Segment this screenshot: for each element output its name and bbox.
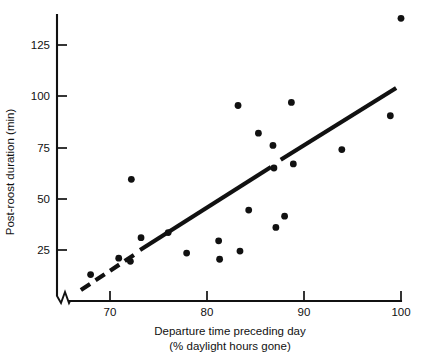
x-tick-labels: 70 80 90 100: [104, 306, 411, 318]
x-axis-title-line1: Departure time preceding day: [154, 325, 306, 337]
x-axis-ticks: [110, 291, 401, 301]
data-point: [128, 176, 135, 183]
trend-line-solid-segment-2: [281, 88, 396, 160]
y-tick-label-75: 75: [37, 142, 50, 154]
data-point: [127, 258, 134, 265]
scatter-plot-figure: 25 50 75 100 125 70 80 90 100 Departure …: [0, 0, 427, 357]
data-point: [281, 213, 288, 220]
axis-break-zigzag: [57, 289, 70, 303]
data-point: [271, 165, 278, 172]
x-tick-label-90: 90: [298, 306, 311, 318]
data-point: [398, 15, 405, 22]
y-axis-title: Post-roost duration (min): [4, 109, 16, 236]
data-point: [215, 237, 222, 244]
data-point: [115, 255, 122, 262]
data-point: [216, 256, 223, 263]
data-point: [387, 112, 394, 119]
x-axis-title-line2: (% daylight hours gone): [169, 340, 291, 352]
data-point: [255, 130, 262, 137]
data-point: [290, 161, 297, 168]
data-point: [338, 146, 345, 153]
y-tick-label-125: 125: [31, 39, 50, 51]
data-point: [165, 229, 172, 236]
data-point: [245, 207, 252, 214]
data-point: [87, 271, 94, 278]
y-tick-label-25: 25: [37, 244, 50, 256]
y-axis-ticks: [57, 45, 67, 250]
plot-canvas: 25 50 75 100 125 70 80 90 100 Departure …: [0, 0, 427, 357]
y-tick-labels: 25 50 75 100 125: [31, 39, 50, 256]
data-point: [270, 142, 277, 149]
data-point: [235, 102, 242, 109]
x-tick-label-100: 100: [391, 306, 410, 318]
x-tick-label-80: 80: [201, 306, 214, 318]
data-points-group: [87, 15, 404, 278]
data-point: [272, 224, 279, 231]
data-point: [288, 99, 295, 106]
data-point: [183, 250, 190, 257]
x-tick-label-70: 70: [104, 306, 117, 318]
data-point: [138, 234, 145, 241]
y-tick-label-50: 50: [37, 193, 50, 205]
data-point: [237, 248, 244, 255]
y-tick-label-100: 100: [31, 90, 50, 102]
